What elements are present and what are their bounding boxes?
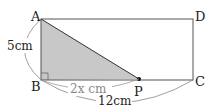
vertex-label-b: B <box>31 79 41 94</box>
dimension-label-ab: 5cm <box>7 39 33 53</box>
vertex-label-p: P <box>134 84 143 99</box>
dimension-label-bc: 12cm <box>98 94 132 108</box>
vertex-label-c: C <box>195 74 205 89</box>
geometry-diagram: A D B C P 5cm 2x cm 12cm <box>0 0 209 111</box>
vertex-label-a: A <box>30 9 41 24</box>
vertex-label-d: D <box>195 9 205 24</box>
